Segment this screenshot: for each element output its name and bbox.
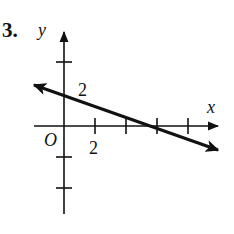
origin-label: O (44, 130, 57, 150)
plotted-line (34, 85, 218, 150)
y-tick-label-2: 2 (78, 80, 87, 100)
coordinate-plane: y x O 2 2 (0, 0, 234, 234)
x-tick-label-2: 2 (89, 138, 98, 158)
x-axis-label: x (206, 97, 215, 117)
y-axis-label: y (36, 20, 46, 40)
